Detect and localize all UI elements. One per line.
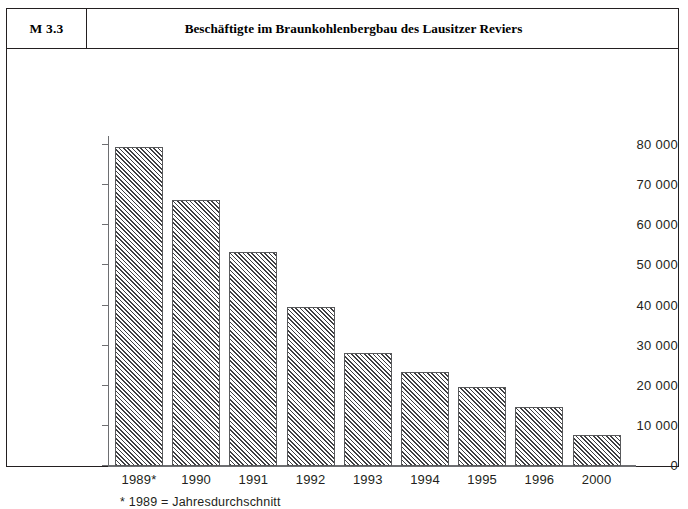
bar-1989 — [115, 147, 163, 466]
chart-header: M 3.3 Beschäftigte im Braunkohlenbergbau… — [7, 9, 678, 49]
bar-1996 — [515, 407, 563, 466]
chart-plot-area: 010 00020 00030 00040 00050 00060 00070 … — [7, 49, 678, 466]
chart-title: Beschäftigte im Braunkohlenbergbau des L… — [87, 9, 678, 48]
bar-1990 — [172, 200, 220, 466]
chart-frame: M 3.3 Beschäftigte im Braunkohlenbergbau… — [6, 8, 679, 467]
x-axis-label: 1989* — [107, 472, 171, 487]
x-axis-label: 1991 — [221, 472, 285, 487]
bar-1991 — [229, 252, 277, 466]
x-axis-label: 2000 — [565, 472, 629, 487]
x-axis-label: 1995 — [450, 472, 514, 487]
x-axis-label: 1993 — [336, 472, 400, 487]
bar-1994 — [401, 372, 449, 466]
footnote-text: * 1989 = Jahresdurchschnitt — [120, 495, 281, 509]
bars-layer — [7, 49, 678, 466]
bar-1992 — [287, 307, 335, 466]
x-axis-label: 1994 — [393, 472, 457, 487]
x-axis-label: 1990 — [164, 472, 228, 487]
x-axis-label: 1992 — [279, 472, 343, 487]
bar-1995 — [458, 387, 506, 466]
x-axis-label: 1996 — [507, 472, 571, 487]
bar-2000 — [573, 435, 621, 466]
bar-1993 — [344, 353, 392, 466]
material-code-label: M 3.3 — [7, 9, 87, 48]
